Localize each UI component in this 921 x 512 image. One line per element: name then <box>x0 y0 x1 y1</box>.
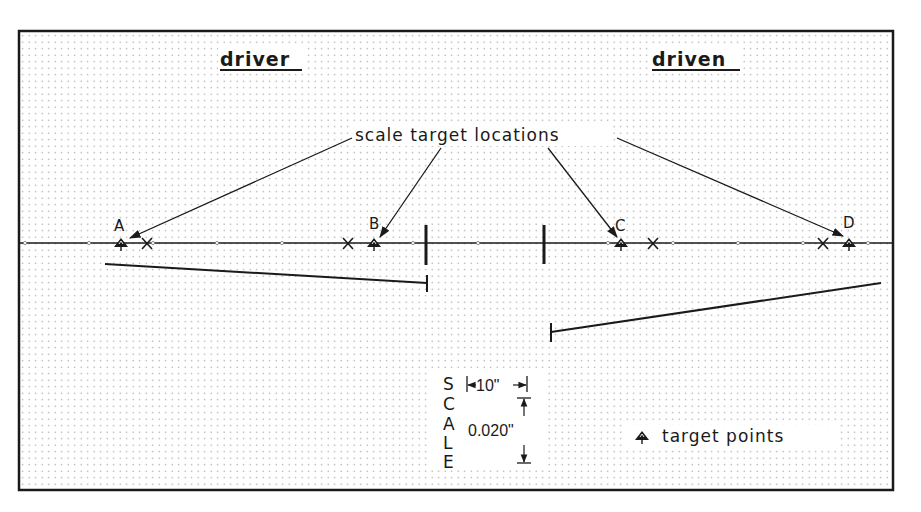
driven-title-text: driven <box>652 48 726 70</box>
point-label-A: A <box>114 217 125 235</box>
legend-label: target points <box>662 426 784 446</box>
scale-letter: E <box>443 452 454 472</box>
scale-vertical-value: 0.020" <box>468 422 514 439</box>
point-label-C: C <box>615 217 625 235</box>
scale-letter: S <box>443 374 454 394</box>
scale-letter: L <box>443 433 453 453</box>
point-label-B: B <box>369 215 379 233</box>
point-label-D: D <box>843 214 855 232</box>
driver-title-text: driver <box>220 48 290 70</box>
scale-letter: A <box>443 414 455 434</box>
scale-letter: C <box>443 394 455 414</box>
scale-horizontal-value: 10" <box>476 377 499 394</box>
callout-label: scale target locations <box>355 125 560 145</box>
shaft-alignment-diagram: driver driven scale target locations <box>0 0 921 512</box>
driver-title: driver <box>220 48 302 70</box>
